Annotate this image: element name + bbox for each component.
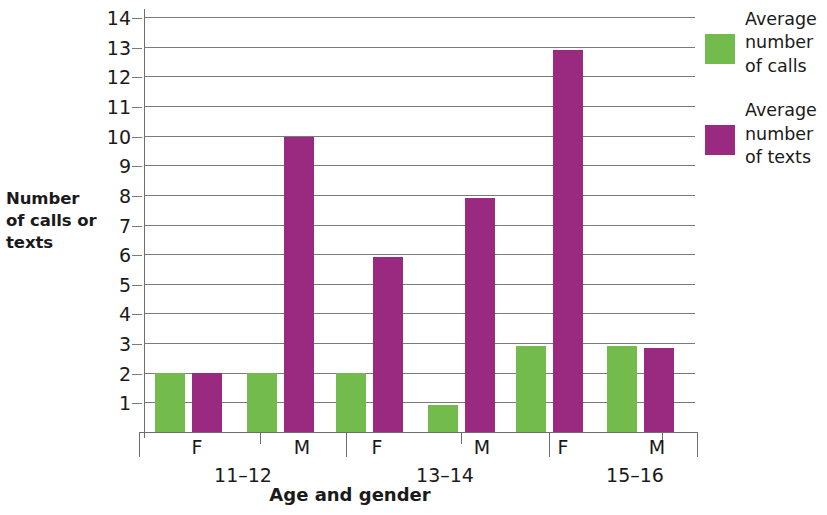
category-group-separator — [346, 432, 347, 457]
y-tick-label: 14 — [107, 9, 131, 28]
gridline: 7 — [145, 225, 695, 226]
gridline: 9 — [145, 165, 695, 166]
bar-calls-5 — [607, 346, 637, 432]
gender-label-3: M — [474, 436, 490, 458]
y-tick-label: 10 — [107, 127, 131, 146]
legend-label-0: Average number of calls — [745, 8, 825, 78]
x-axis-title: Age and gender — [0, 484, 700, 505]
age-group-label-0: 11–12 — [214, 464, 272, 486]
y-tick-mark — [132, 374, 142, 375]
y-tick-mark — [132, 344, 142, 345]
y-tick-label: 6 — [119, 246, 131, 265]
gender-label-5: M — [649, 436, 665, 458]
gender-label-4: F — [558, 436, 569, 458]
bar-texts-5 — [644, 348, 674, 432]
y-tick-mark — [132, 166, 142, 167]
gridline: 6 — [145, 254, 695, 255]
bar-texts-0 — [192, 373, 222, 432]
y-tick-label: 13 — [107, 38, 131, 57]
gridline: 5 — [145, 284, 695, 285]
green-square-swatch — [705, 34, 735, 64]
gridline: 8 — [145, 195, 695, 196]
y-tick-mark — [132, 314, 142, 315]
category-tick — [260, 432, 261, 444]
y-tick-label: 8 — [119, 186, 131, 205]
category-group-separator — [139, 432, 140, 457]
y-axis-title: Number of calls or texts — [6, 188, 102, 253]
gridline: 10 — [145, 136, 695, 137]
gender-label-2: F — [372, 436, 383, 458]
gridline: 14 — [145, 17, 695, 18]
age-group-label-2: 15–16 — [606, 464, 664, 486]
y-tick-mark — [132, 137, 142, 138]
bar-calls-2 — [336, 373, 366, 432]
gridline: 11 — [145, 106, 695, 107]
bar-texts-3 — [465, 198, 495, 432]
y-tick-mark — [132, 255, 142, 256]
age-group-label-1: 13–14 — [416, 464, 474, 486]
gridline: 4 — [145, 313, 695, 314]
y-tick-mark — [132, 48, 142, 49]
gender-label-0: F — [192, 436, 203, 458]
gender-label-1: M — [294, 436, 310, 458]
y-tick-mark — [132, 77, 142, 78]
y-tick-mark — [132, 196, 142, 197]
y-tick-label: 2 — [119, 364, 131, 383]
y-tick-label: 4 — [119, 305, 131, 324]
category-tick — [461, 432, 462, 444]
bar-calls-0 — [155, 373, 185, 432]
legend-item-0: Average number of calls — [705, 8, 825, 78]
gridline: 12 — [145, 76, 695, 77]
gridline: 3 — [145, 343, 695, 344]
y-tick-label: 5 — [119, 275, 131, 294]
y-tick-mark — [132, 18, 142, 19]
chart-legend: Average number of callsAverage number of… — [705, 8, 825, 191]
bar-texts-1 — [284, 137, 314, 432]
category-group-separator — [697, 432, 698, 457]
legend-label-1: Average number of texts — [745, 99, 825, 169]
bar-chart: Number of calls or texts 141312111098765… — [0, 0, 827, 515]
legend-item-1: Average number of texts — [705, 99, 825, 169]
y-tick-label: 11 — [107, 97, 131, 116]
bar-calls-3 — [428, 405, 458, 432]
y-tick-label: 9 — [119, 157, 131, 176]
y-tick-mark — [132, 226, 142, 227]
category-group-separator — [549, 432, 550, 457]
y-tick-mark — [132, 285, 142, 286]
y-tick-label: 3 — [119, 335, 131, 354]
plot-area: 1413121110987654321 — [145, 17, 695, 432]
y-tick-mark — [132, 107, 142, 108]
y-tick-label: 7 — [119, 216, 131, 235]
gridline: 13 — [145, 47, 695, 48]
y-tick-mark — [132, 403, 142, 404]
bar-calls-1 — [247, 373, 277, 432]
bar-texts-2 — [373, 257, 403, 432]
purple-square-swatch — [705, 125, 735, 155]
y-tick-label: 12 — [107, 68, 131, 87]
bar-calls-4 — [516, 346, 546, 432]
bar-texts-4 — [553, 50, 583, 432]
y-tick-label: 1 — [119, 394, 131, 413]
